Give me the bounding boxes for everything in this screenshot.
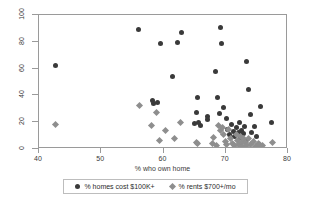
data-point-homes-cost bbox=[218, 25, 223, 30]
legend-label-homes-cost: % homes cost $100K+ bbox=[84, 182, 154, 191]
data-point-homes-cost bbox=[53, 63, 58, 68]
data-point-homes-cost bbox=[175, 40, 180, 45]
data-point-homes-cost bbox=[195, 95, 200, 100]
chart-legend: % homes cost $100K+ % rents $700+/mo bbox=[63, 179, 248, 194]
data-point-homes-cost bbox=[217, 111, 222, 116]
data-point-homes-cost bbox=[219, 41, 224, 46]
x-tick-label: 70 bbox=[215, 154, 235, 163]
data-point-homes-cost bbox=[194, 110, 199, 115]
x-tick-mark bbox=[225, 148, 226, 153]
data-point-rents bbox=[259, 142, 266, 147]
data-point-homes-cost bbox=[179, 30, 184, 35]
data-point-homes-cost bbox=[244, 59, 249, 64]
data-point-homes-cost bbox=[252, 124, 257, 129]
y-tick-label: 80 bbox=[14, 36, 30, 46]
data-point-homes-cost bbox=[221, 105, 226, 110]
diamond-marker-icon bbox=[168, 183, 175, 190]
data-point-homes-cost bbox=[158, 41, 163, 46]
data-point-homes-cost bbox=[269, 120, 274, 125]
x-tick-label: 40 bbox=[28, 154, 48, 163]
plot-frame bbox=[38, 14, 287, 148]
y-tick-label: 100 bbox=[14, 9, 30, 19]
x-axis-title: % who own home bbox=[38, 164, 287, 173]
y-tick-label: 0 bbox=[14, 143, 30, 153]
x-tick-mark bbox=[100, 148, 101, 153]
data-point-rents bbox=[156, 137, 163, 144]
legend-label-rents: % rents $700+/mo bbox=[179, 182, 236, 191]
data-point-rents bbox=[153, 109, 160, 116]
data-point-homes-cost bbox=[254, 134, 259, 139]
data-point-homes-cost bbox=[237, 120, 242, 125]
data-point-homes-cost bbox=[213, 69, 218, 74]
data-point-homes-cost bbox=[258, 104, 263, 109]
data-point-homes-cost bbox=[248, 112, 253, 117]
y-tick-label: 60 bbox=[14, 63, 30, 73]
data-point-homes-cost bbox=[198, 123, 203, 128]
data-point-rents bbox=[148, 122, 155, 129]
data-point-rents bbox=[171, 135, 178, 142]
data-point-homes-cost bbox=[246, 87, 251, 92]
data-point-rents bbox=[194, 140, 201, 147]
data-point-homes-cost bbox=[136, 27, 141, 32]
data-point-homes-cost bbox=[224, 116, 229, 121]
x-tick-label: 60 bbox=[153, 154, 173, 163]
x-tick-label: 80 bbox=[277, 154, 297, 163]
y-tick-label: 20 bbox=[14, 116, 30, 126]
y-tick-label: 40 bbox=[14, 89, 30, 99]
x-tick-mark bbox=[287, 148, 288, 153]
data-point-rents bbox=[177, 119, 184, 126]
x-tick-mark bbox=[38, 148, 39, 153]
scatter-chart-figure: 020406080100 4050607080 % who own home %… bbox=[0, 0, 310, 204]
data-point-rents bbox=[52, 121, 59, 128]
legend-entry-rents: % rents $700+/mo bbox=[170, 182, 236, 191]
x-tick-mark bbox=[163, 148, 164, 153]
plot-area bbox=[39, 15, 286, 147]
circle-marker-icon bbox=[75, 184, 80, 189]
x-tick-label: 50 bbox=[90, 154, 110, 163]
data-point-homes-cost bbox=[215, 95, 220, 100]
data-point-rents bbox=[213, 142, 220, 147]
data-point-homes-cost bbox=[205, 117, 210, 122]
data-point-homes-cost bbox=[155, 100, 160, 105]
data-point-rents bbox=[136, 102, 143, 109]
data-point-rents bbox=[269, 139, 276, 146]
data-point-homes-cost bbox=[170, 74, 175, 79]
legend-entry-homes-cost: % homes cost $100K+ bbox=[75, 182, 154, 191]
data-point-rents bbox=[162, 127, 169, 134]
data-point-homes-cost bbox=[242, 124, 247, 129]
